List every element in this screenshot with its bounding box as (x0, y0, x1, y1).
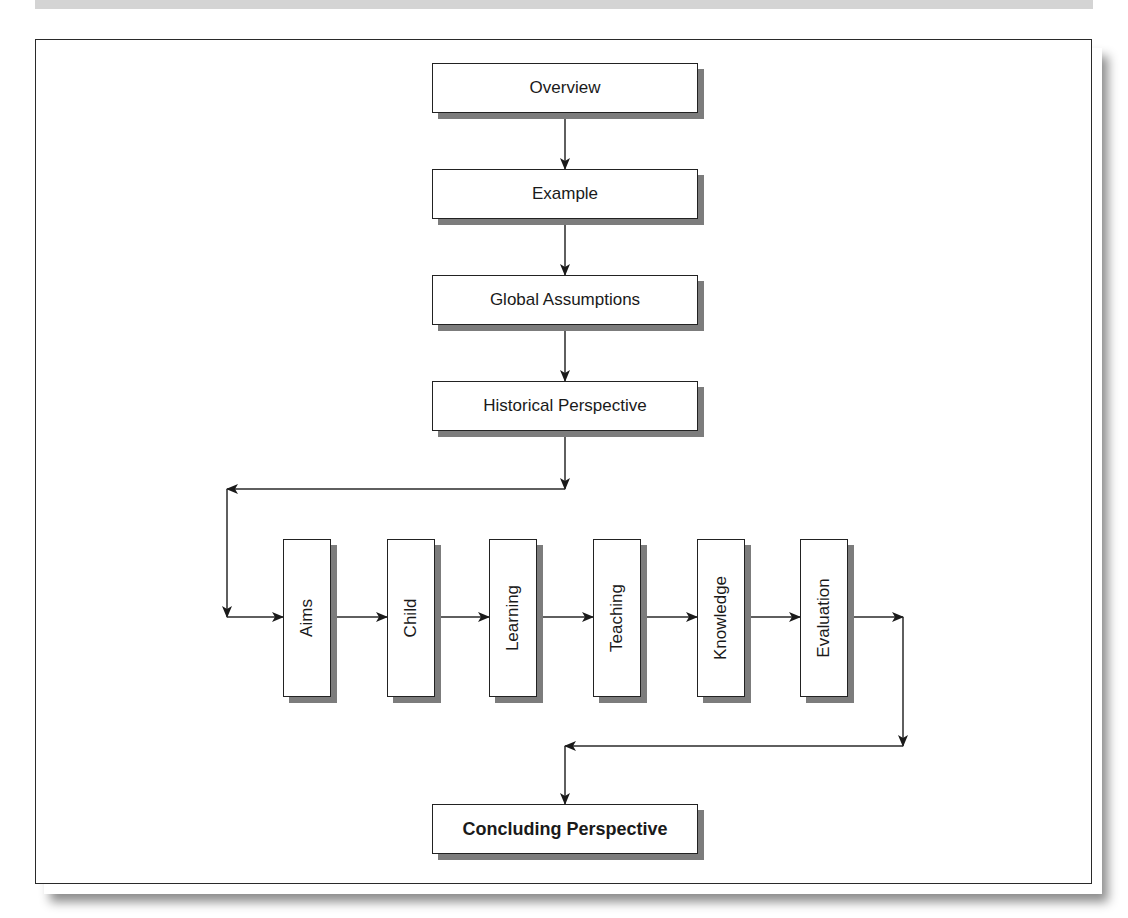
node-child: Child (387, 539, 435, 697)
node-label: Evaluation (814, 578, 834, 657)
node-label: Example (532, 184, 598, 204)
node-label: Knowledge (711, 576, 731, 660)
node-label: Overview (530, 78, 601, 98)
node-aims: Aims (283, 539, 331, 697)
node-label: Aims (297, 599, 317, 637)
diagram-frame (35, 39, 1092, 884)
node-label: Historical Perspective (483, 396, 646, 416)
node-label: Learning (503, 585, 523, 651)
node-example: Example (432, 169, 698, 219)
node-learning: Learning (489, 539, 537, 697)
node-teaching: Teaching (593, 539, 641, 697)
node-evaluation: Evaluation (800, 539, 848, 697)
node-concluding-perspective: Concluding Perspective (432, 804, 698, 854)
node-label: Teaching (607, 584, 627, 652)
node-label: Global Assumptions (490, 290, 640, 310)
node-global-assumptions: Global Assumptions (432, 275, 698, 325)
node-overview: Overview (432, 63, 698, 113)
node-label: Concluding Perspective (462, 819, 667, 840)
node-knowledge: Knowledge (697, 539, 745, 697)
figure-caption-band (35, 0, 1093, 9)
node-historical-perspective: Historical Perspective (432, 381, 698, 431)
node-label: Child (401, 599, 421, 638)
